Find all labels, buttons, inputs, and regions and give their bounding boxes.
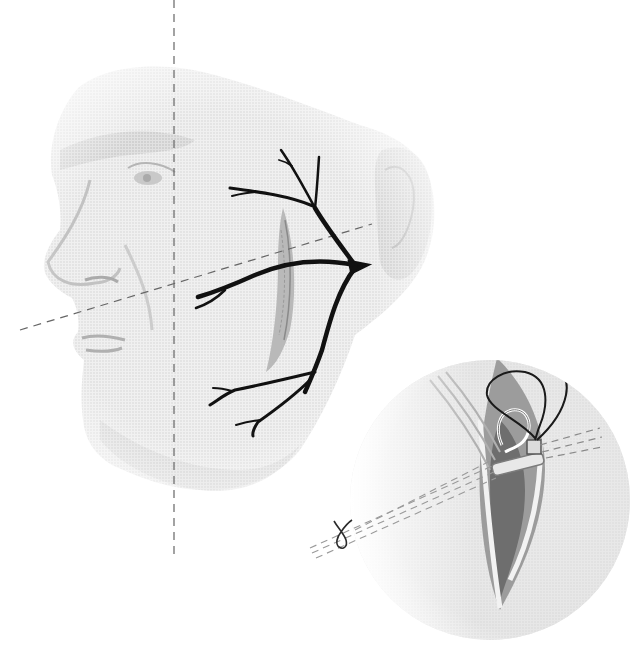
magnified-inset xyxy=(350,358,630,640)
suture-knot xyxy=(334,520,352,548)
illustration-canvas: facial nerve branches over parotid incis… xyxy=(0,0,630,654)
illustration-svg xyxy=(0,0,630,654)
